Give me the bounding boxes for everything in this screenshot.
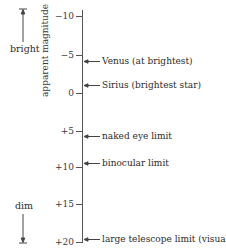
tick-label: −10: [48, 11, 74, 21]
arrow-left-icon: [84, 162, 100, 165]
annotation-venus: Venus (at brightest): [102, 56, 193, 66]
annotation-binocular-limit: binocular limit: [102, 158, 169, 168]
tick-label: 0: [48, 88, 74, 98]
tick-label: +5: [48, 126, 74, 136]
dim-arrow-down-icon: [19, 214, 27, 243]
arrow-left-icon: [84, 135, 100, 138]
annotation-arrows: [84, 60, 100, 241]
annotation-large-telescope-limit: large telescope limit (visual): [102, 234, 226, 244]
arrow-left-icon: [84, 60, 100, 63]
axis-ticks: [76, 17, 83, 243]
arrow-left-icon: [84, 238, 100, 241]
arrow-left-icon: [84, 84, 100, 87]
tick-label: −5: [48, 50, 74, 60]
tick-label: +20: [48, 237, 74, 247]
bright-label: bright: [10, 44, 40, 54]
annotation-sirius: Sirius (brightest star): [102, 80, 201, 90]
tick-label: +15: [48, 199, 74, 209]
bright-arrow-up-icon: [19, 9, 27, 42]
dim-label: dim: [15, 201, 33, 211]
diagram-lines: [0, 0, 226, 252]
annotation-naked-eye-limit: naked eye limit: [102, 131, 172, 141]
tick-label: +10: [48, 162, 74, 172]
